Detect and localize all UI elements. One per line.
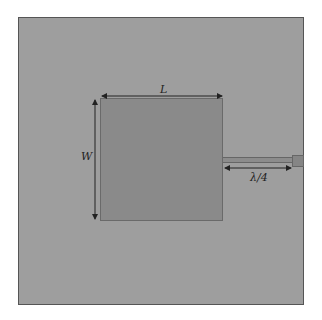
quarter-wave-feedline — [223, 157, 293, 163]
length-label: L — [160, 84, 167, 95]
feed-port-connector — [292, 155, 304, 167]
feed-length-label: λ/4 — [250, 172, 268, 183]
radiating-patch — [100, 98, 223, 221]
width-label: W — [81, 151, 92, 162]
